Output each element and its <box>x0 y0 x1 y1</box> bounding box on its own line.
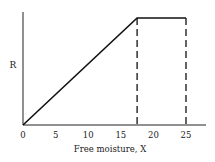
x-axis-label: Free moisture, X <box>74 144 147 154</box>
x-tick-labels: 0510152025 <box>20 130 191 140</box>
rate-line <box>23 18 186 125</box>
chart-svg: 0510152025 R Free moisture, X <box>0 0 215 162</box>
x-tick-label: 25 <box>181 130 192 140</box>
chart: 0510152025 R Free moisture, X <box>0 0 215 162</box>
x-tick-label: 0 <box>20 130 25 140</box>
x-tick-label: 20 <box>148 130 159 140</box>
x-tick-label: 10 <box>83 130 94 140</box>
data-series <box>23 18 186 125</box>
x-tick-label: 5 <box>53 130 58 140</box>
y-axis-label: R <box>10 60 17 70</box>
x-tick-label: 15 <box>115 130 126 140</box>
